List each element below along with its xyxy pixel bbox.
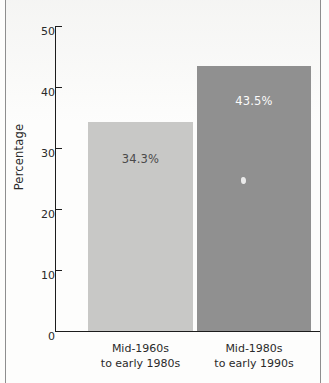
y-tick-40	[56, 87, 62, 88]
y-axis-title: Percentage	[12, 112, 26, 202]
x-axis-line	[55, 331, 320, 332]
y-tick-label-30: 30	[29, 148, 55, 159]
y-tick-30	[56, 148, 62, 149]
y-tick-label-50: 50	[29, 26, 55, 37]
bar-mid-1980s-to-early-1990s: 43.5%	[197, 66, 311, 331]
x-category-label-0: Mid-1960s to early 1980s	[78, 341, 203, 371]
y-tick-label-40: 40	[29, 87, 55, 98]
bar-mid-1960s-to-early-1980s: 34.3%	[88, 122, 193, 331]
x-category-label-1: Mid-1980s to early 1990s	[190, 341, 318, 371]
page-rule-left	[5, 0, 6, 383]
y-tick-20	[56, 209, 62, 210]
x-category-label-1-line2: to early 1990s	[190, 356, 318, 371]
bar-chart-figure: Percentage 50 40 30 20 10 0 34.3% 43.5% …	[0, 0, 329, 383]
y-axis-line	[55, 26, 56, 332]
bar-value-label-1: 43.5%	[197, 94, 311, 108]
y-tick-label-10: 10	[29, 270, 55, 281]
y-tick-10	[56, 270, 62, 271]
y-tick-label-0: 0	[29, 331, 55, 342]
x-category-label-0-line2: to early 1980s	[78, 356, 203, 371]
x-category-label-0-line1: Mid-1960s	[112, 342, 169, 355]
scan-artifact-speck	[241, 177, 246, 184]
x-category-label-1-line1: Mid-1980s	[225, 342, 282, 355]
bar-value-label-0: 34.3%	[88, 152, 193, 166]
y-tick-label-20: 20	[29, 209, 55, 220]
page-rule-right	[320, 0, 321, 383]
y-tick-50	[56, 26, 62, 27]
y-tick-0	[56, 331, 62, 332]
